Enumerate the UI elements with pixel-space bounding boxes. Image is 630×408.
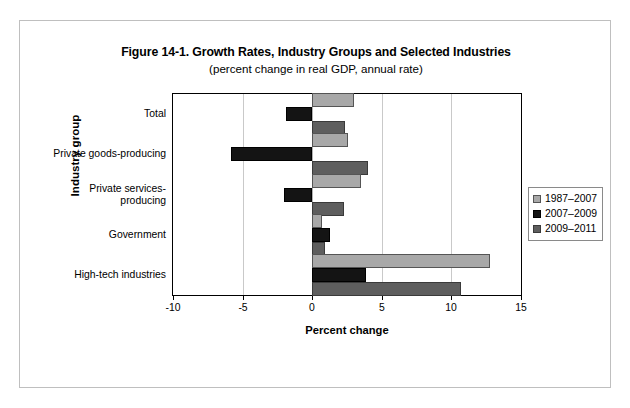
x-tick-15 [521, 295, 522, 300]
bar-1 [231, 147, 312, 161]
legend-swatch-icon [533, 210, 541, 218]
chart-subtitle: (percent change in real GDP, annual rate… [20, 62, 612, 75]
legend-item: 2007–2009 [533, 206, 597, 221]
legend-swatch-icon [533, 225, 541, 233]
category-label: Private goods-producing [53, 148, 166, 160]
category-label: Private services-producing [46, 183, 166, 207]
x-axis-title: Percent change [172, 324, 522, 336]
x-tick--10 [173, 295, 174, 300]
legend-swatch-icon [533, 195, 541, 203]
x-tick-label: 15 [515, 302, 527, 313]
legend-item: 1987–2007 [533, 191, 597, 206]
figure-page: Figure 14-1. Growth Rates, Industry Grou… [0, 0, 630, 408]
category-label: Government [109, 229, 166, 241]
legend-label: 1987–2007 [545, 193, 597, 204]
legend-label: 2009–2011 [545, 223, 596, 234]
bar-2 [312, 282, 461, 296]
x-tick-label: 0 [309, 302, 315, 313]
x-tick-label: 5 [379, 302, 385, 313]
x-tick-label: 10 [445, 302, 457, 313]
bar-1 [284, 188, 312, 202]
bar-0 [312, 133, 348, 147]
title-block: Figure 14-1. Growth Rates, Industry Grou… [20, 45, 612, 75]
bar-0 [312, 93, 354, 107]
bar-0 [312, 214, 322, 228]
x-tick-label: -5 [238, 302, 247, 313]
x-tick--5 [243, 295, 244, 300]
x-tick-label: -10 [165, 302, 180, 313]
bar-2 [312, 161, 368, 175]
legend-item: 2009–2011 [533, 221, 597, 236]
category-label: Total [144, 108, 166, 120]
legend-label: 2007–2009 [545, 208, 597, 219]
plot-area: -10-5051015TotalPrivate goods-producingP… [172, 93, 522, 296]
gridline--5 [243, 94, 244, 295]
category-label: High-tech industries [74, 269, 166, 281]
bar-0 [312, 174, 361, 188]
bar-0 [312, 254, 490, 268]
chart-legend: 1987–20072007–20092009–2011 [528, 187, 603, 241]
bar-1 [286, 107, 312, 121]
chart-title: Figure 14-1. Growth Rates, Industry Grou… [20, 45, 612, 59]
bar-1 [312, 268, 366, 282]
figure-frame: Figure 14-1. Growth Rates, Industry Grou… [19, 20, 611, 388]
bar-1 [312, 228, 330, 242]
